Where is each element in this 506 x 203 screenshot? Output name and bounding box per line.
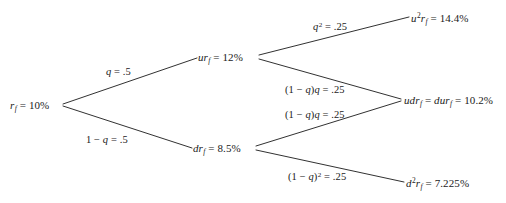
- edge-down-updown: [256, 101, 401, 146]
- binomial-interest-rate-tree: rf = 10% urf = 12% drf = 8.5% u2rf = 14.…: [0, 0, 506, 203]
- node-label-up: urf = 12%: [198, 52, 243, 65]
- edge-label-root-up: q = .5: [106, 67, 131, 78]
- edge-root-up: [63, 58, 197, 104]
- node-label-updown: udrf = durf = 10.2%: [404, 95, 493, 108]
- edge-label-down-downdown: (1 − q)2 = .25: [288, 172, 346, 183]
- node-updown-math: udrf = durf = 10.2%: [404, 94, 493, 106]
- edge-root-up-math: q = .5: [106, 66, 131, 77]
- edge-up-upup-math: q2 = .25: [313, 21, 347, 32]
- edge-label-root-down: 1 − q = .5: [86, 135, 128, 146]
- edge-label-down-updown: (1 − q)q = .25: [285, 110, 345, 121]
- node-label-downdown: d2rf = 7.225%: [406, 177, 469, 190]
- edge-label-up-updown: (1 − q)q = .25: [285, 85, 345, 96]
- node-downdown-math: d2rf = 7.225%: [406, 177, 469, 189]
- node-root-math: rf = 10%: [10, 99, 49, 111]
- node-down-math: drf = 8.5%: [193, 142, 241, 154]
- node-label-root: rf = 10%: [10, 100, 49, 113]
- node-up-math: urf = 12%: [198, 51, 243, 63]
- node-label-down: drf = 8.5%: [193, 143, 241, 156]
- edge-label-up-upup: q2 = .25: [313, 22, 347, 33]
- edge-down-updown-math: (1 − q)q = .25: [285, 109, 345, 120]
- node-upup-math: u2rf = 14.4%: [411, 12, 469, 24]
- edge-up-updown-math: (1 − q)q = .25: [285, 84, 345, 95]
- node-label-upup: u2rf = 14.4%: [411, 12, 469, 25]
- edge-down-downdown-math: (1 − q)2 = .25: [288, 171, 346, 182]
- edge-root-down-math: 1 − q = .5: [86, 134, 128, 145]
